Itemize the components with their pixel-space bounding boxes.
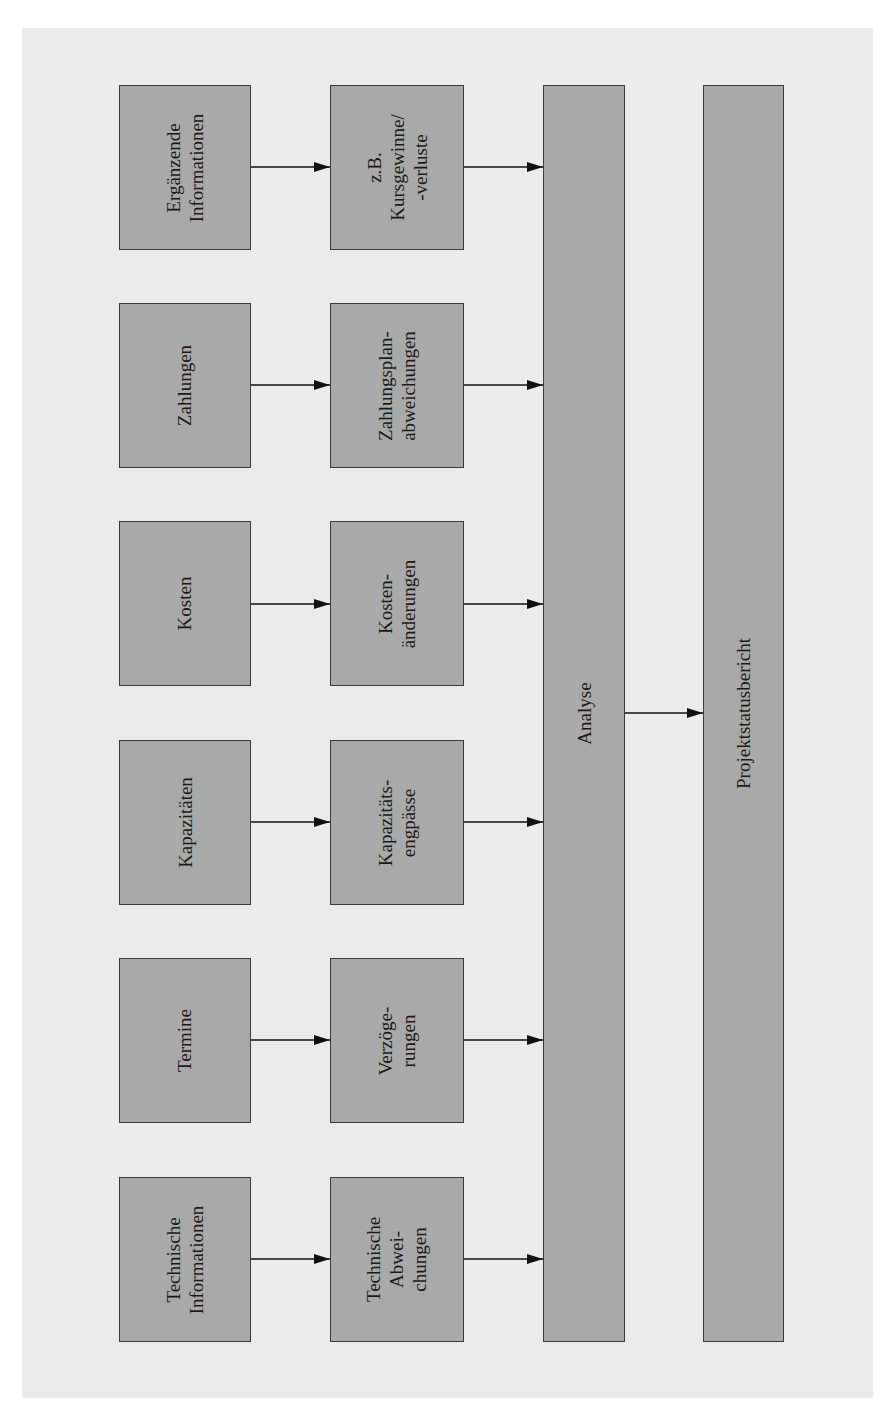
connector-arrows (0, 0, 889, 1428)
